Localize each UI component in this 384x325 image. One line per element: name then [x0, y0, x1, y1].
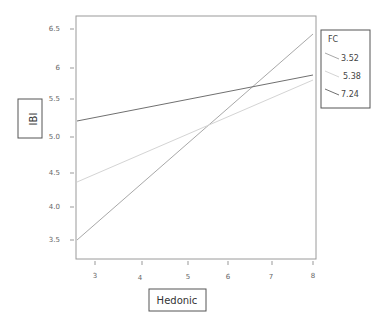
y-axis: 6.5 6 5.5 5.0 4.5 4.0 3.5 — [49, 25, 74, 244]
legend-title: FC — [328, 35, 339, 44]
series-line-7-24 — [77, 75, 313, 121]
x-tick-label: 7 — [269, 273, 273, 281]
legend-label: 5.38 — [343, 72, 361, 81]
series-line-3-52 — [77, 34, 313, 240]
x-tick-label: 5 — [186, 273, 190, 281]
x-tick-label: 6 — [226, 273, 231, 281]
y-tick-label: 5.5 — [49, 95, 60, 103]
legend-label: 7.24 — [341, 90, 359, 99]
y-axis-label: IBI — [28, 113, 39, 126]
x-axis: 3 4 5 6 7 8 — [93, 261, 315, 282]
x-axis-label: Hedonic — [157, 295, 198, 306]
series-line-5-38 — [77, 80, 313, 182]
y-tick-label: 6 — [56, 64, 61, 72]
x-tick-label: 3 — [93, 272, 97, 280]
y-tick-label: 4.5 — [49, 169, 60, 177]
legend-label: 3.52 — [341, 54, 359, 63]
plot-frame — [76, 16, 316, 259]
y-tick-label: 3.5 — [49, 236, 60, 244]
y-tick-label: 4.0 — [49, 203, 60, 211]
legend: FC 3.52 5.38 7.24 — [321, 30, 370, 108]
y-tick-label: 5.0 — [49, 133, 60, 141]
y-tick-label: 6.5 — [49, 25, 60, 33]
interaction-plot: 6.5 6 5.5 5.0 4.5 4.0 3.5 3 4 5 6 7 8 IB… — [0, 0, 384, 325]
x-tick-label: 8 — [311, 272, 315, 280]
x-tick-label: 4 — [138, 274, 143, 282]
